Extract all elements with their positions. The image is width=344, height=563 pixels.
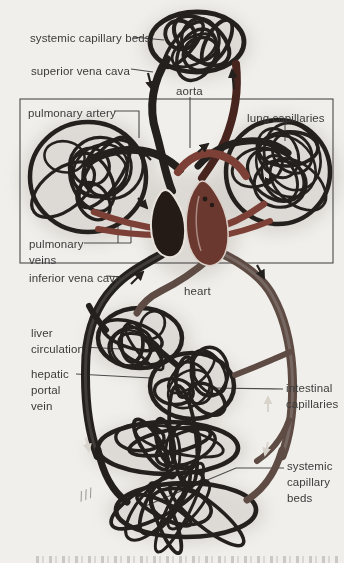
mesenteric-artery-vessel (235, 352, 290, 375)
label-lung-capillaries: lung capillaries (247, 110, 325, 126)
label-aorta: aorta (176, 83, 203, 99)
label-superior-vena-cava: superior vena cava (31, 63, 130, 79)
circulatory-system-figure: systemic capillary beds superior vena ca… (0, 0, 344, 563)
label-systemic-capillary-beds-top: systemic capillary beds (30, 30, 151, 46)
label-inferior-vena-cava: inferior vena cava (29, 270, 122, 286)
artist-signature (78, 488, 95, 502)
label-pulmonary-veins: pulmonary veins (29, 236, 84, 268)
label-hepatic-portal-vein: hepatic portal vein (31, 366, 69, 414)
flow-arrow-down-icon (148, 73, 152, 89)
label-intestinal-capillaries: intestinal capillaries (286, 380, 338, 412)
leader-line (131, 69, 153, 72)
label-heart: heart (184, 283, 211, 299)
label-liver-circulation: liver circulation (31, 325, 84, 357)
label-systemic-capillary-beds-bottom: systemic capillary beds (287, 458, 333, 506)
heart-valve-dot (210, 203, 214, 207)
label-pulmonary-artery: pulmonary artery (28, 105, 116, 121)
heart-valve-dot (203, 197, 208, 202)
cropped-caption-fragment (36, 556, 340, 563)
